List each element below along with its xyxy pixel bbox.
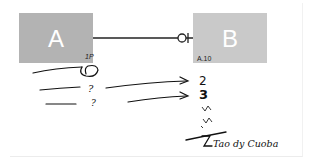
relationship-connector[interactable]	[93, 33, 193, 43]
zero-circle-icon	[178, 34, 186, 42]
cardinality-3: 3	[199, 87, 208, 102]
cardinality-2: 2	[199, 74, 207, 88]
handwritten-footer-note: Tao dy Cuoba	[213, 138, 279, 149]
question-mark-1: ?	[88, 83, 94, 94]
handwritten-left-annotations	[33, 66, 188, 105]
handwritten-squiggles	[201, 106, 212, 128]
question-mark-2: ?	[91, 98, 96, 108]
annotation-layer: ? ? 2 3 Tao dy Cuoba	[0, 0, 314, 162]
